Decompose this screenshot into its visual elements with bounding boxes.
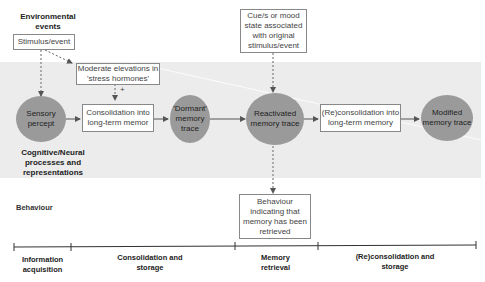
- cue-mood-box: Cue/s or mood state associated with orig…: [240, 9, 307, 53]
- dormant-memory-trace-node: 'Dormant' memory trace: [170, 95, 210, 143]
- stimulus-event-box: Stimulus/event: [13, 34, 75, 50]
- phase-consolidation-storage: Consolidation and storage: [110, 253, 190, 273]
- plus-annotation: +: [120, 85, 125, 94]
- environmental-events-label: Environmental events: [18, 12, 78, 32]
- phase-memory-retrieval: Memory retrieval: [248, 253, 303, 273]
- phase-reconsolidation-storage: (Re)consolidation and storage: [350, 252, 440, 272]
- behaviour-retrieved-box: Behaviour indicating that memory has bee…: [239, 194, 311, 239]
- stress-hormones-box: Moderate elevations in 'stress hormones': [76, 63, 160, 85]
- phase-information-acquisition: Information acquisition: [14, 255, 71, 275]
- sensory-percept-node: Sensory percept: [16, 96, 66, 142]
- behaviour-label: Behaviour: [16, 203, 53, 212]
- cognitive-neural-label: Cognitive/Neural processes and represent…: [18, 148, 88, 178]
- modified-memory-trace-node: Modified memory trace: [421, 95, 473, 141]
- reconsolidation-box: (Re)consolidation into long-term memory: [320, 104, 401, 132]
- consolidation-box: Consolidation into long-term memor: [82, 104, 154, 132]
- reactivated-memory-trace-node: Reactivated memory trace: [246, 93, 304, 145]
